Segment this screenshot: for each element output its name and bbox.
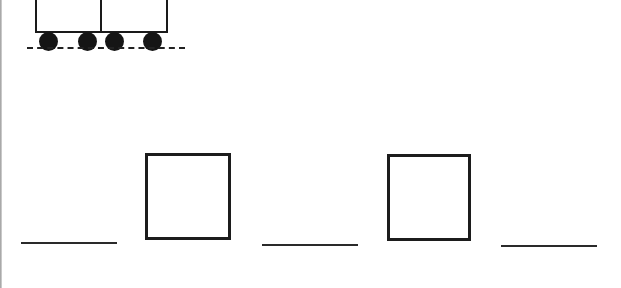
page-edge <box>0 0 2 288</box>
train-car-2 <box>100 0 168 33</box>
answer-box-2[interactable] <box>387 154 471 241</box>
dashed-track <box>27 47 185 49</box>
answer-blank-2[interactable] <box>262 244 358 246</box>
answer-box-1[interactable] <box>145 153 231 240</box>
train-car-1 <box>35 0 102 33</box>
answer-blank-1[interactable] <box>21 242 117 244</box>
answer-blank-3[interactable] <box>501 245 597 247</box>
